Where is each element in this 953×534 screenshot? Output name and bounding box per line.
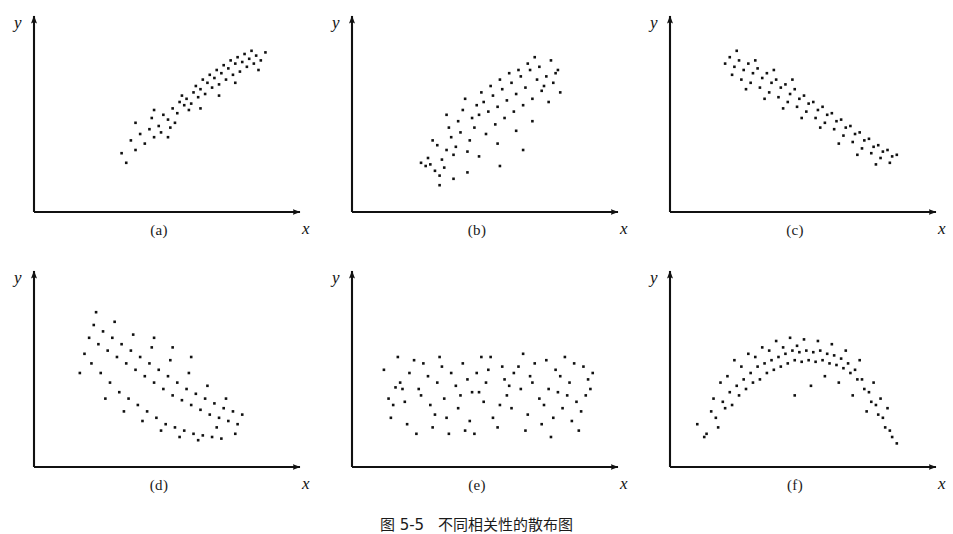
data-point — [858, 359, 861, 362]
data-point — [538, 397, 541, 400]
data-point — [88, 337, 91, 340]
data-point — [800, 117, 803, 120]
data-point — [515, 93, 518, 96]
data-point — [153, 109, 156, 112]
data-point — [775, 340, 778, 343]
y-axis-label: y — [648, 268, 658, 287]
data-point — [225, 397, 228, 400]
data-point — [468, 139, 471, 142]
data-point — [561, 407, 564, 410]
data-point — [443, 397, 446, 400]
data-point — [496, 142, 499, 145]
y-axis-label: y — [12, 268, 22, 287]
data-point — [127, 397, 130, 400]
data-point — [125, 162, 128, 165]
data-point — [826, 114, 829, 117]
data-point — [459, 131, 462, 134]
data-point — [557, 391, 560, 394]
data-point — [487, 369, 490, 372]
data-point — [232, 410, 235, 413]
data-point — [865, 410, 868, 413]
data-point — [780, 365, 783, 368]
data-point — [485, 381, 488, 384]
data-point — [234, 62, 237, 65]
data-point — [533, 362, 536, 365]
data-point — [838, 142, 841, 145]
data-point — [547, 388, 550, 391]
data-point — [503, 378, 506, 381]
data-point — [183, 104, 186, 107]
data-point — [190, 404, 193, 407]
data-point — [703, 436, 706, 439]
data-point — [791, 349, 794, 352]
data-point — [868, 391, 871, 394]
data-point — [745, 388, 748, 391]
data-point — [796, 345, 799, 348]
data-point — [573, 362, 576, 365]
data-point — [387, 397, 390, 400]
data-point — [780, 86, 783, 89]
data-point — [141, 420, 144, 423]
data-point — [831, 343, 834, 346]
data-point — [113, 321, 116, 324]
data-point — [225, 78, 228, 81]
data-point — [875, 404, 878, 407]
data-point — [882, 417, 885, 420]
data-point — [564, 356, 567, 359]
data-point — [851, 394, 854, 397]
data-point — [496, 426, 499, 429]
data-point — [754, 59, 757, 62]
data-point — [543, 404, 546, 407]
data-point — [800, 361, 803, 364]
data-point — [213, 402, 216, 405]
data-point — [106, 349, 109, 352]
y-axis-label: y — [648, 13, 658, 32]
data-point — [120, 152, 123, 155]
data-point — [752, 72, 755, 75]
data-point — [715, 417, 718, 420]
data-point — [155, 417, 158, 420]
data-point — [826, 353, 829, 356]
scatter-panel-d: yx (d) — [0, 255, 318, 510]
data-point — [134, 122, 137, 125]
data-point — [506, 99, 509, 102]
data-point — [868, 138, 871, 141]
data-point — [872, 146, 875, 149]
data-point — [234, 82, 237, 85]
data-point — [766, 372, 769, 375]
data-point — [197, 439, 200, 442]
data-point — [559, 91, 562, 94]
data-point — [431, 426, 434, 429]
data-point-group — [120, 50, 266, 165]
data-point — [404, 401, 407, 404]
data-point — [520, 75, 523, 78]
data-point — [445, 417, 448, 420]
data-point — [222, 407, 225, 410]
data-point — [482, 101, 485, 104]
data-point — [754, 356, 757, 359]
data-point — [202, 78, 205, 81]
data-point — [803, 94, 806, 97]
data-point — [466, 171, 469, 174]
data-point — [246, 66, 249, 69]
data-point — [824, 375, 827, 378]
data-point — [710, 410, 713, 413]
data-point — [239, 70, 242, 73]
data-point — [896, 154, 899, 157]
data-point — [814, 117, 817, 120]
data-point — [144, 375, 147, 378]
data-point — [401, 388, 404, 391]
panel-caption-c: (c) — [636, 222, 953, 239]
data-point — [153, 136, 156, 139]
data-point — [833, 128, 836, 131]
data-point — [489, 85, 492, 88]
data-point — [870, 152, 873, 155]
data-point — [828, 362, 831, 365]
data-point — [176, 112, 179, 115]
panel-caption-e: (e) — [318, 477, 636, 494]
data-point — [181, 399, 184, 402]
data-point — [123, 410, 126, 413]
data-point — [749, 82, 752, 85]
data-point — [438, 174, 441, 177]
data-point — [529, 69, 532, 72]
